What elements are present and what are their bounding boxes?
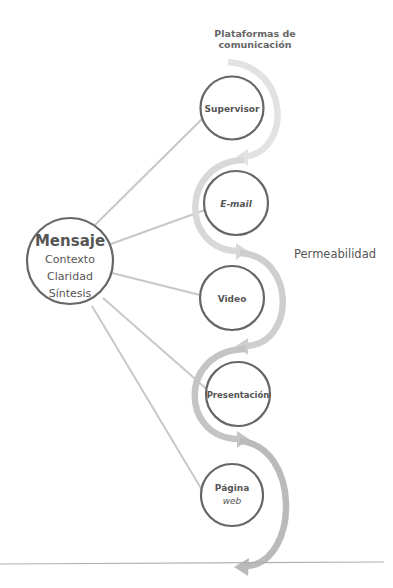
connector-pagina-web	[92, 306, 202, 490]
title-line-1: Plataformas de	[200, 28, 310, 39]
connector-supervisor	[95, 118, 203, 225]
diagram-canvas: Mensaje Contexto Claridad Síntesis Super…	[0, 0, 393, 588]
arrowhead-icon	[234, 558, 249, 576]
label-supervisor: Supervisor	[205, 104, 260, 114]
node-pagina-web	[201, 464, 263, 526]
diagram-title: Plataformas de comunicación	[200, 28, 310, 50]
label-video: Video	[218, 294, 247, 304]
permeability-label: Permeabilidad	[294, 247, 376, 261]
label-email: E-mail	[220, 199, 252, 209]
connector-lines	[92, 118, 210, 490]
label-pagina: Página	[215, 483, 249, 493]
mensaje-line-3: Síntesis	[49, 287, 92, 300]
title-line-2: comunicación	[200, 39, 310, 50]
mensaje-line-2: Claridad	[47, 270, 93, 283]
divider-line	[0, 562, 384, 564]
mensaje-title: Mensaje	[35, 232, 105, 250]
label-web: web	[223, 496, 242, 506]
mensaje-line-1: Contexto	[45, 253, 95, 266]
connector-video	[112, 273, 200, 295]
label-presentacion: Presentación	[207, 390, 270, 400]
connector-presentacion	[103, 298, 210, 392]
connector-email	[108, 210, 205, 245]
